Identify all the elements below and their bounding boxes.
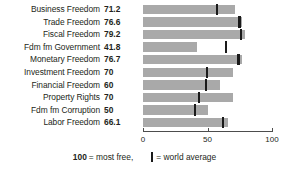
row-plot-area xyxy=(143,91,272,104)
legend-most-free-text: = most free, xyxy=(89,152,133,162)
chart-row: Investment Freedom70 xyxy=(0,66,289,79)
axis-tick-mark xyxy=(272,128,273,132)
world-average-marker-icon xyxy=(240,29,242,40)
world-average-marker-icon xyxy=(151,152,153,162)
world-average-marker-icon xyxy=(206,67,208,78)
category-label: Financial Freedom xyxy=(0,79,100,92)
value-label: 79.2 xyxy=(104,28,130,41)
category-label: Trade Freedom xyxy=(0,16,100,29)
chart-row: Fdm fm Government41.8 xyxy=(0,41,289,54)
value-label: 76.6 xyxy=(104,16,130,29)
row-plot-area xyxy=(143,66,272,79)
row-plot-area xyxy=(143,28,272,41)
value-label: 76.7 xyxy=(104,53,130,66)
value-label: 66.1 xyxy=(104,116,130,129)
value-bar xyxy=(143,105,208,114)
world-average-marker-icon xyxy=(216,4,218,15)
category-label: Property Rights xyxy=(0,91,100,104)
category-label: Business Freedom xyxy=(0,3,100,16)
value-label: 71.2 xyxy=(104,3,130,16)
value-label: 60 xyxy=(104,79,130,92)
chart-rows: Business Freedom71.2Trade Freedom76.6Fis… xyxy=(0,3,289,129)
value-bar xyxy=(143,80,220,89)
chart-row: Trade Freedom76.6 xyxy=(0,16,289,29)
chart-row: Fdm fm Corruption50 xyxy=(0,104,289,117)
value-bar xyxy=(143,93,233,102)
category-label: Fiscal Freedom xyxy=(0,28,100,41)
legend-world-average-text: = world average xyxy=(156,152,216,162)
row-plot-area xyxy=(143,3,272,16)
axis-tick-label: 0 xyxy=(141,135,145,144)
world-average-marker-icon xyxy=(237,54,239,65)
value-bar xyxy=(143,30,245,39)
chart-row: Business Freedom71.2 xyxy=(0,3,289,16)
legend-most-free-value: 100 xyxy=(73,152,87,162)
row-plot-area xyxy=(143,79,272,92)
value-bar xyxy=(143,42,197,51)
axis-tick-mark xyxy=(208,128,209,132)
value-bar xyxy=(143,55,242,64)
axis-tick-mark xyxy=(143,128,144,132)
value-bar xyxy=(143,17,242,26)
category-label: Fdm fm Government xyxy=(0,41,100,54)
category-label: Labor Freedom xyxy=(0,116,100,129)
world-average-marker-icon xyxy=(225,41,227,52)
value-bar xyxy=(143,5,235,14)
value-bar xyxy=(143,118,228,127)
world-average-marker-icon xyxy=(205,79,207,90)
value-label: 70 xyxy=(104,91,130,104)
world-average-marker-icon xyxy=(238,16,240,27)
axis-tick-label: 50 xyxy=(203,135,212,144)
freedom-index-bar-chart: Business Freedom71.2Trade Freedom76.6Fis… xyxy=(0,0,289,171)
category-label: Investment Freedom xyxy=(0,66,100,79)
world-average-marker-icon xyxy=(198,92,200,103)
chart-row: Property Rights70 xyxy=(0,91,289,104)
row-plot-area xyxy=(143,104,272,117)
category-label: Monetary Freedom xyxy=(0,53,100,66)
chart-row: Fiscal Freedom79.2 xyxy=(0,28,289,41)
value-label: 50 xyxy=(104,104,130,117)
row-plot-area xyxy=(143,16,272,29)
category-label: Fdm fm Corruption xyxy=(0,104,100,117)
chart-row: Monetary Freedom76.7 xyxy=(0,53,289,66)
value-bar xyxy=(143,68,233,77)
world-average-marker-icon xyxy=(222,117,224,128)
world-average-marker-icon xyxy=(194,104,196,115)
row-plot-area xyxy=(143,41,272,54)
value-label: 70 xyxy=(104,66,130,79)
chart-legend: 100 = most free, = world average xyxy=(0,150,289,164)
chart-row: Labor Freedom66.1 xyxy=(0,116,289,129)
value-label: 41.8 xyxy=(104,41,130,54)
row-plot-area xyxy=(143,53,272,66)
chart-row: Financial Freedom60 xyxy=(0,79,289,92)
axis-tick-label: 100 xyxy=(265,135,278,144)
